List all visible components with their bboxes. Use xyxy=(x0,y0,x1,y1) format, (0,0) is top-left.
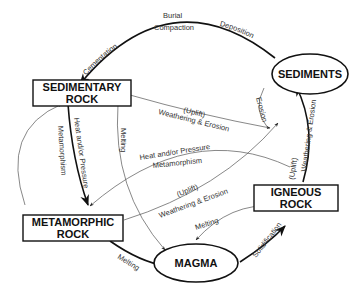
label-erosion: Erosion xyxy=(254,96,269,123)
node-magma: MAGMA xyxy=(154,244,238,282)
label-melting-3: Melting xyxy=(116,252,141,272)
arrow-sedimentary-melting xyxy=(117,104,165,250)
node-igneous-rock: IGNEOUS ROCK xyxy=(254,185,338,211)
arrow-metamorphic-to-sedimentary xyxy=(18,104,62,205)
label-uplift-3: (Uplift) xyxy=(287,157,299,181)
node-sediments: SEDIMENTS xyxy=(272,54,348,94)
sediments-label: SEDIMENTS xyxy=(278,68,342,80)
igneous-label-2: ROCK xyxy=(280,198,312,210)
label-metamorphism-1: Metamorphism xyxy=(56,126,68,176)
igneous-label-1: IGNEOUS xyxy=(271,186,322,198)
metamorphic-label-2: ROCK xyxy=(57,228,89,240)
node-metamorphic-rock: METAMORPHIC ROCK xyxy=(23,215,123,241)
node-sedimentary-rock: SEDIMENTARY ROCK xyxy=(33,80,131,106)
rock-cycle-diagram: Cementation Burial Compaction Deposition… xyxy=(0,0,353,289)
magma-label: MAGMA xyxy=(175,257,218,269)
label-weathering-3: Weathering & Erosion xyxy=(299,99,318,172)
label-uplift-2: (Uplift) xyxy=(175,182,199,199)
sedimentary-label-1: SEDIMENTARY xyxy=(43,81,123,93)
metamorphic-label-1: METAMORPHIC xyxy=(32,216,114,228)
label-melting-1: Melting xyxy=(119,128,128,152)
sedimentary-label-2: ROCK xyxy=(66,93,98,105)
label-cementation: Cementation xyxy=(81,42,119,77)
label-solidification: Solidification xyxy=(250,221,283,260)
label-compaction: Compaction xyxy=(154,23,194,32)
label-burial: Burial xyxy=(163,11,183,20)
